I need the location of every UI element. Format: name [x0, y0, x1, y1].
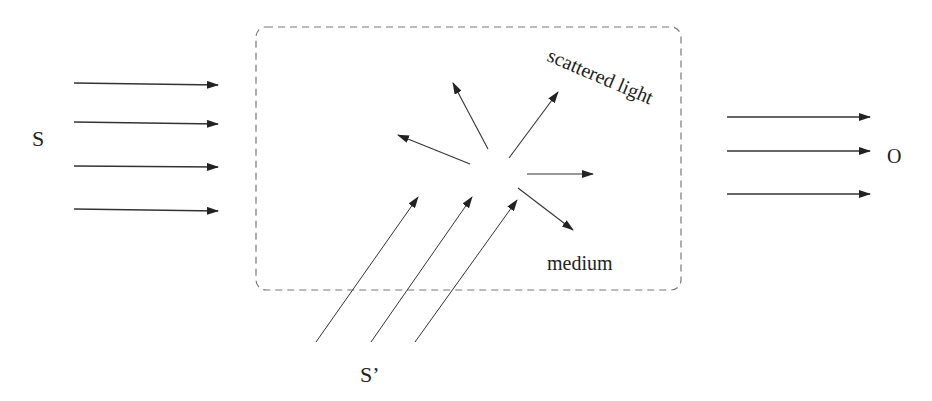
- arrow-diagonal: [316, 197, 418, 342]
- arrow-right: [74, 166, 218, 167]
- arrow-right: [74, 209, 218, 211]
- arrow-right: [74, 83, 218, 85]
- arrow-scattered: [453, 83, 488, 149]
- label-medium: medium: [547, 252, 613, 275]
- incident-arrows-s-prime: [316, 197, 517, 342]
- label-observer-o: O: [887, 145, 901, 168]
- arrow-diagonal: [415, 200, 517, 342]
- arrow-diagonal: [371, 197, 472, 342]
- incident-arrows-s: [74, 83, 218, 211]
- scattering-diagram: [0, 0, 932, 401]
- arrow-scattered: [398, 135, 470, 164]
- arrow-scattered: [509, 92, 558, 158]
- medium-box: [256, 27, 681, 290]
- scattered-light-arrows: [398, 83, 593, 230]
- arrow-scattered: [518, 188, 573, 230]
- arrow-right: [74, 122, 218, 124]
- label-source-s-prime: S’: [360, 362, 380, 388]
- outgoing-arrows-o: [727, 117, 870, 194]
- label-source-s: S: [32, 126, 44, 152]
